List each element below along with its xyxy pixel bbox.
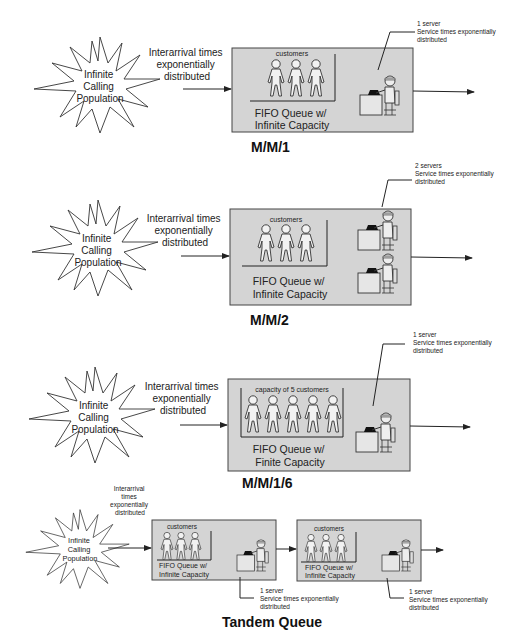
queue-label: FIFO Queue w/ Infinite Capacity: [255, 107, 330, 131]
queue-header: customers: [270, 216, 303, 223]
server-note: 2 servers Service times exponentially di…: [415, 162, 496, 185]
section-tandem: Infinite Calling Population Interarrival…: [26, 485, 490, 630]
server-note: 1 server Service times exponentially dis…: [413, 331, 494, 354]
arrival-label: Interarrival times exponentially distrib…: [110, 485, 150, 516]
queue-header: customers: [314, 525, 345, 532]
queue-header: customers: [167, 523, 198, 530]
section-title: M/M/1: [251, 139, 290, 155]
section-mm2: Infinite Calling Population Interarrival…: [32, 162, 496, 328]
queue-header: capacity of 5 customers: [255, 386, 329, 394]
queue-label: FIFO Queue w/ Infinite Capacity: [253, 275, 328, 300]
departure-arrow: [410, 426, 470, 427]
section-title: Tandem Queue: [222, 614, 322, 630]
server-note: 1 server Service times exponentially dis…: [260, 587, 341, 610]
queue-label: FIFO Queue w/ Finite Capacity: [253, 443, 328, 468]
calling-population-starburst: Infinite Calling Population: [32, 200, 158, 296]
server-note: 1 server Service times exponentially dis…: [417, 20, 498, 43]
queue-label: FIFO Queue w/ Infinite Capacity: [305, 564, 355, 580]
departure-arrow: [413, 91, 474, 92]
departure-arrow: [411, 257, 472, 258]
section-mm16: Infinite Calling Population Interarrival…: [29, 331, 494, 491]
queue-label: FIFO Queue w/ Infinite Capacity: [159, 562, 209, 579]
arrival-label: Interarrival times exponentially distrib…: [149, 47, 226, 82]
calling-population-starburst: Infinite Calling Population: [26, 510, 129, 589]
server-callout-line: [382, 180, 412, 207]
section-title: M/M/1/6: [242, 475, 293, 491]
calling-population-starburst: Infinite Calling Population: [34, 37, 160, 133]
arrival-label: Interarrival times exponentially distrib…: [145, 381, 222, 416]
arrival-label: Interarrival times exponentially distrib…: [147, 213, 224, 248]
queue-header: customers: [276, 50, 309, 57]
server-note: 1 server Service times exponentially dis…: [409, 588, 490, 611]
calling-population-starburst: Infinite Calling Population: [29, 367, 155, 463]
section-title: M/M/2: [250, 312, 289, 328]
section-mm1: Infinite Calling Population Interarrival…: [34, 20, 498, 155]
